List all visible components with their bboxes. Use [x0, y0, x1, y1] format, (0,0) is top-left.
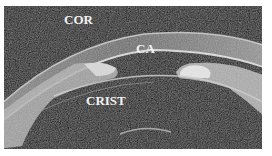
label-cor: COR: [64, 13, 93, 26]
oct-scan-graphic: [4, 6, 262, 149]
oct-scan-image: COR CA CRIST: [4, 6, 262, 149]
label-crist: CRIST: [86, 94, 126, 107]
label-ca: CA: [136, 42, 155, 55]
